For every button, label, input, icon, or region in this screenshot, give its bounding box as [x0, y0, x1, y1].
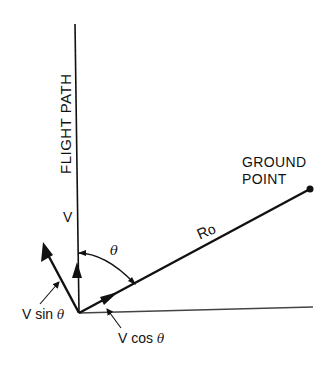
v-cos-prefix: V cos: [118, 330, 157, 346]
flight-path-label: FLIGHT PATH: [57, 73, 74, 174]
v-sin-prefix: V sin: [22, 306, 57, 322]
ground-line: [79, 307, 313, 313]
v-sin-vector-line: [47, 253, 79, 313]
ground-point-dot: [307, 186, 314, 193]
v-cos-theta-symbol: θ: [157, 332, 165, 346]
v-sin-theta-symbol: θ: [57, 308, 65, 322]
v-sin-leader: [40, 282, 59, 304]
v-cos-theta-label: V cos θ: [118, 330, 165, 346]
v-label: V: [63, 209, 73, 225]
v-sin-theta-label: V sin θ: [22, 306, 65, 322]
v-arrow-icon: [72, 262, 82, 278]
theta-arc: [78, 253, 134, 283]
theta-label: θ: [110, 243, 118, 258]
ground-point-label-line2: POINT: [242, 171, 287, 187]
v-cos-arrow-icon: [100, 292, 118, 305]
flight-geometry-diagram: FLIGHT PATH V θ Ro GROUND POINT V sin θ …: [0, 0, 330, 366]
ground-point-label-line1: GROUND: [242, 154, 307, 170]
theta-arc-start-arrow-icon: [78, 250, 86, 256]
